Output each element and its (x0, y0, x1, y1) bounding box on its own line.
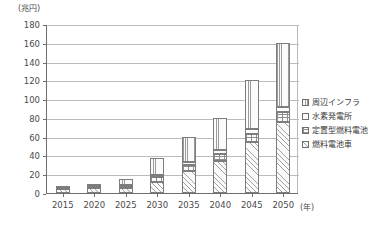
bar-segment[interactable] (276, 112, 290, 121)
gridline (47, 175, 299, 176)
bar-segment[interactable] (119, 186, 133, 189)
x-axis-tick-mark (220, 194, 221, 197)
bar-segment[interactable] (119, 188, 133, 193)
y-axis-tick-mark (43, 194, 46, 195)
bar-segment[interactable] (119, 179, 133, 185)
legend-item[interactable]: 燃料電池車 (302, 138, 387, 151)
y-axis-tick-mark (43, 175, 46, 176)
y-axis-tick-label: 160 (14, 40, 40, 48)
bar-segment[interactable] (182, 162, 196, 165)
bar-segment[interactable] (87, 184, 101, 186)
stacked-bar-chart: (兆円) 20152020202520302035204020452050 02… (0, 0, 387, 246)
gridline (47, 25, 299, 26)
bar-group[interactable] (213, 118, 227, 193)
gridline (47, 44, 299, 45)
legend-swatch-icon (302, 127, 309, 134)
bar-segment[interactable] (213, 150, 227, 154)
gridline (47, 156, 299, 157)
bar-segment[interactable] (56, 186, 70, 188)
bar-group[interactable] (182, 137, 196, 193)
bar-segment[interactable] (182, 137, 196, 162)
y-axis-tick-mark (43, 138, 46, 139)
bar-segment[interactable] (150, 177, 164, 182)
bar-segment[interactable] (276, 43, 290, 107)
y-axis-tick-label: 180 (14, 21, 40, 29)
bar-segment[interactable] (182, 165, 196, 172)
gridline (47, 100, 299, 101)
bar-segment[interactable] (245, 129, 259, 134)
bar-segment[interactable] (213, 118, 227, 150)
y-axis-tick-label: 0 (14, 190, 40, 198)
y-axis-tick-mark (43, 156, 46, 157)
y-axis-tick-mark (43, 44, 46, 45)
y-axis-tick-label: 60 (14, 134, 40, 142)
y-axis-tick-label: 40 (14, 152, 40, 160)
y-axis-tick-mark (43, 25, 46, 26)
bar-group[interactable] (119, 179, 133, 193)
y-axis-tick-mark (43, 81, 46, 82)
chart-legend: 周辺インフラ水素発電所定置型燃料電池燃料電池車 (302, 96, 387, 152)
y-axis-tick-mark (43, 63, 46, 64)
bar-segment[interactable] (245, 80, 259, 129)
bar-group[interactable] (56, 187, 70, 193)
gridline (47, 138, 299, 139)
bar-segment[interactable] (56, 189, 70, 193)
bar-segment[interactable] (245, 134, 259, 142)
x-axis-unit-label: (年) (300, 201, 314, 212)
y-axis-tick-label: 80 (14, 115, 40, 123)
gridline (47, 81, 299, 82)
x-axis-tick-mark (94, 194, 95, 197)
y-axis-unit-label: (兆円) (18, 2, 40, 13)
y-axis-tick-label: 140 (14, 59, 40, 67)
legend-item[interactable]: 水素発電所 (302, 110, 387, 123)
x-axis-tick-label: 2050 (263, 201, 303, 210)
bar-group[interactable] (87, 185, 101, 193)
legend-item[interactable]: 周辺インフラ (302, 96, 387, 109)
y-axis-tick-mark (43, 100, 46, 101)
legend-swatch-icon (302, 141, 309, 148)
bar-segment[interactable] (87, 188, 101, 193)
x-axis-tick-mark (283, 194, 284, 197)
legend-item[interactable]: 定置型燃料電池 (302, 124, 387, 137)
x-axis-tick-mark (63, 194, 64, 197)
legend-item-label: 燃料電池車 (312, 140, 352, 149)
bar-group[interactable] (276, 43, 290, 193)
y-axis-tick-label: 120 (14, 77, 40, 85)
bar-segment[interactable] (245, 142, 259, 193)
bar-segment[interactable] (87, 186, 101, 188)
legend-item-label: 周辺インフラ (312, 98, 360, 107)
legend-swatch-icon (302, 113, 309, 120)
legend-item-label: 水素発電所 (312, 112, 352, 121)
plot-area: 20152020202520302035204020452050 (46, 25, 298, 194)
bar-segment[interactable] (150, 175, 164, 177)
legend-swatch-icon (302, 99, 309, 106)
legend-item-label: 定置型燃料電池 (312, 126, 368, 135)
bar-segment[interactable] (276, 122, 290, 193)
bar-segment[interactable] (182, 171, 196, 193)
bar-segment[interactable] (150, 158, 164, 175)
y-axis-tick-label: 100 (14, 96, 40, 104)
x-axis-tick-mark (126, 194, 127, 197)
bar-group[interactable] (245, 80, 259, 193)
bar-segment[interactable] (213, 154, 227, 162)
x-axis-tick-mark (252, 194, 253, 197)
y-axis-tick-mark (43, 119, 46, 120)
bar-group[interactable] (150, 158, 164, 193)
x-axis-tick-mark (157, 194, 158, 197)
bar-segment[interactable] (150, 182, 164, 193)
y-axis-tick-label: 20 (14, 171, 40, 179)
x-axis-tick-mark (189, 194, 190, 197)
bar-segment[interactable] (276, 107, 290, 113)
gridline (47, 63, 299, 64)
gridline (47, 119, 299, 120)
bar-segment[interactable] (213, 161, 227, 193)
